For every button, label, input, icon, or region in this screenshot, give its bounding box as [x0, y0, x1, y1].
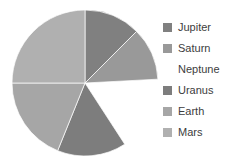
legend-swatch-earth — [163, 107, 172, 116]
legend-swatch-neptune — [163, 65, 172, 74]
legend-swatch-uranus — [163, 86, 172, 95]
legend-label: Jupiter — [178, 22, 211, 33]
legend-swatch-saturn — [163, 44, 172, 53]
legend-item-neptune[interactable]: Neptune — [163, 59, 235, 80]
legend-item-mars[interactable]: Mars — [163, 122, 235, 143]
legend-item-uranus[interactable]: Uranus — [163, 80, 235, 101]
pie-slice-group — [12, 10, 161, 156]
pie-chart-figure: JupiterSaturnNeptuneUranusEarthMars — [0, 0, 235, 160]
pie-plot-area — [9, 7, 161, 160]
legend-item-saturn[interactable]: Saturn — [163, 38, 235, 59]
pie-svg — [9, 7, 161, 160]
legend-label: Uranus — [178, 85, 213, 96]
legend-swatch-mars — [163, 128, 172, 137]
legend-swatch-jupiter — [163, 23, 172, 32]
chart-legend: JupiterSaturnNeptuneUranusEarthMars — [163, 17, 235, 143]
legend-item-jupiter[interactable]: Jupiter — [163, 17, 235, 38]
chart-title — [4, 0, 154, 3]
legend-label: Neptune — [178, 64, 220, 75]
legend-item-earth[interactable]: Earth — [163, 101, 235, 122]
legend-label: Mars — [178, 127, 202, 138]
legend-label: Saturn — [178, 43, 210, 54]
legend-label: Earth — [178, 106, 204, 117]
pie-slice-mars[interactable] — [12, 10, 85, 83]
